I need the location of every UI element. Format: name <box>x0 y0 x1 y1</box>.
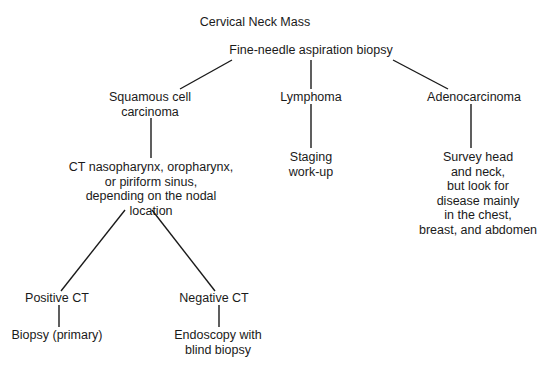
node-positive-ct: Positive CT <box>25 291 89 306</box>
node-line: and neck, <box>419 165 537 180</box>
edge-fna-squamous <box>180 60 232 89</box>
node-squamous-cell-carcinoma: Squamous cell carcinoma <box>109 90 191 119</box>
node-line: Squamous cell <box>109 90 191 105</box>
node-fine-needle-aspiration: Fine-needle aspiration biopsy <box>229 43 392 58</box>
edge-fna-adeno <box>393 60 448 89</box>
node-line: breast, and abdomen <box>419 223 537 238</box>
node-line: Staging <box>289 150 333 165</box>
node-line: depending on the nodal <box>69 189 233 204</box>
node-line: in the chest, <box>419 208 537 223</box>
node-survey-head-neck: Survey head and neck, but look for disea… <box>419 150 537 237</box>
node-line: or piriform sinus, <box>69 175 233 190</box>
node-biopsy-primary: Biopsy (primary) <box>12 328 103 343</box>
node-line: Survey head <box>419 150 537 165</box>
node-line: but look for <box>419 179 537 194</box>
node-line: disease mainly <box>419 194 537 209</box>
node-lymphoma: Lymphoma <box>280 90 341 105</box>
node-line: carcinoma <box>109 105 191 120</box>
node-adenocarcinoma: Adenocarcinoma <box>427 90 521 105</box>
edge-ct-positive <box>61 210 125 291</box>
node-line: Endoscopy with <box>174 328 262 343</box>
node-endoscopy-blind-biopsy: Endoscopy with blind biopsy <box>174 328 262 357</box>
node-line: work-up <box>289 165 333 180</box>
node-line: blind biopsy <box>174 343 262 358</box>
node-line: CT nasopharynx, oropharynx, <box>69 160 233 175</box>
edge-ct-negative <box>152 210 215 291</box>
node-line: location <box>69 204 233 219</box>
node-negative-ct: Negative CT <box>179 291 248 306</box>
node-staging-workup: Staging work-up <box>289 150 333 179</box>
diagram-title: Cervical Neck Mass <box>200 15 310 30</box>
node-ct-imaging: CT nasopharynx, oropharynx, or piriform … <box>69 160 233 218</box>
